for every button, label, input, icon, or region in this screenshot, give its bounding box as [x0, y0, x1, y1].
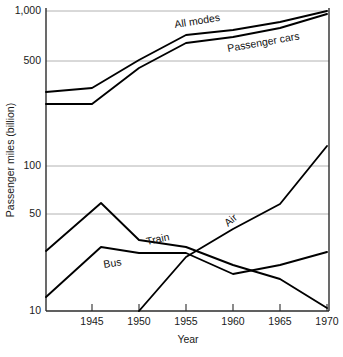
y-tick-labels: 1,000 500 100 50 10 — [15, 4, 41, 316]
ytick-label-100: 100 — [23, 159, 41, 171]
axes — [46, 8, 329, 311]
x-tickmarks — [92, 304, 327, 311]
series-label-all-modes: All modes — [173, 11, 220, 30]
xtick-label-1960: 1960 — [221, 315, 245, 327]
series-line-bus — [46, 247, 327, 297]
series-label-bus: Bus — [102, 255, 122, 270]
passenger-miles-line-chart: 1,000 500 100 50 10 1945 1950 1955 1960 … — [0, 0, 343, 357]
series-label-air: Air — [222, 211, 240, 229]
xtick-label-1950: 1950 — [127, 315, 151, 327]
series-lines — [46, 11, 327, 311]
series-label-passenger-cars: Passenger cars — [226, 29, 300, 53]
series-inline-labels: All modes Passenger cars Train Bus Air — [102, 11, 300, 270]
y-axis-title: Passenger miles (billion) — [4, 103, 16, 217]
xtick-label-1945: 1945 — [80, 315, 104, 327]
xtick-label-1965: 1965 — [268, 315, 292, 327]
series-line-air — [139, 146, 327, 311]
x-axis-title: Year — [177, 333, 199, 345]
ytick-label-1000: 1,000 — [15, 4, 41, 16]
series-line-train — [46, 203, 327, 308]
xtick-label-1970: 1970 — [315, 315, 339, 327]
ytick-label-500: 500 — [23, 54, 41, 66]
x-tick-labels: 1945 1950 1955 1960 1965 1970 — [80, 315, 339, 327]
chart-figure: 1,000 500 100 50 10 1945 1950 1955 1960 … — [0, 0, 343, 357]
ytick-label-50: 50 — [29, 207, 41, 219]
xtick-label-1955: 1955 — [174, 315, 198, 327]
ytick-label-10: 10 — [29, 304, 41, 316]
